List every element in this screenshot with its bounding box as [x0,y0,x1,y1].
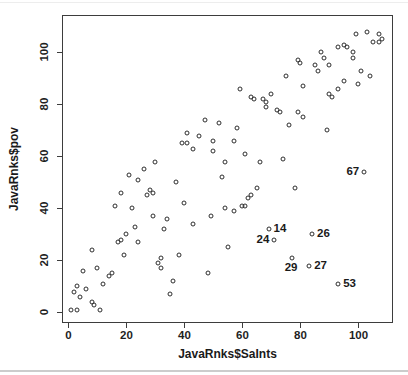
data-point [153,159,158,164]
y-axis-tick [57,312,62,314]
y-axis-tick-label: 80 [38,98,50,111]
point-label: 53 [343,277,356,289]
data-point [141,167,146,172]
data-point [185,141,190,146]
data-point [176,253,181,258]
data-point [98,307,103,312]
data-point [301,115,306,120]
data-point [159,255,164,260]
data-point [223,206,228,211]
data-point [292,185,297,190]
data-point [341,79,346,84]
data-point [237,86,242,91]
data-point [165,216,170,221]
data-point [89,247,94,252]
data-point-labeled [310,232,315,237]
data-point [324,128,329,133]
data-point [223,159,228,164]
data-point [147,188,152,193]
data-point [173,180,178,185]
data-point [341,42,346,47]
y-axis-tick-label: 20 [38,254,50,267]
data-point [208,214,213,219]
data-point [220,175,225,180]
y-axis-tick [57,156,62,158]
data-point [101,281,106,286]
data-point [112,203,117,208]
x-axis-tick-label: 100 [349,329,368,341]
x-axis-tick [126,323,128,328]
x-axis-tick-label: 20 [120,329,133,341]
data-point-labeled [272,237,277,242]
data-point-labeled [307,263,312,268]
x-axis-tick [68,323,70,328]
data-point [72,289,77,294]
data-point [379,37,384,42]
data-point [269,92,274,97]
x-axis-tick-label: 60 [236,329,249,341]
data-point [191,146,196,151]
data-point [312,63,317,68]
data-point [191,221,196,226]
y-axis-tick [57,208,62,210]
data-point [150,214,155,219]
x-axis-tick [358,323,360,328]
data-point [295,58,300,63]
data-point [109,271,114,276]
data-point [318,50,323,55]
data-point [327,92,332,97]
data-point [211,138,216,143]
data-point [133,224,138,229]
data-point [179,141,184,146]
data-point [182,201,187,206]
data-point [136,240,141,245]
y-axis-tick [57,260,62,262]
data-point [156,260,161,265]
data-point [356,81,361,86]
data-point [80,268,85,273]
data-point [170,279,175,284]
data-point [365,29,370,34]
point-label: 27 [314,259,327,271]
data-point [121,253,126,258]
data-point [69,307,74,312]
scan-artifact-top [0,2,408,3]
data-point [202,118,207,123]
data-point [118,237,123,242]
point-label: 14 [274,223,287,235]
data-point [185,131,190,136]
data-point [283,73,288,78]
data-point [127,172,132,177]
data-point [327,63,332,68]
data-point [75,284,80,289]
data-point [95,266,100,271]
x-axis-tick-label: 40 [178,329,191,341]
data-point [263,105,268,110]
point-label: 26 [317,228,330,240]
data-point [336,45,341,50]
x-axis-tick [242,323,244,328]
data-point [89,299,94,304]
point-label: 67 [346,165,359,177]
y-axis-tick [57,52,62,54]
data-point [124,232,129,237]
data-point [225,245,230,250]
x-axis-tick-label: 0 [65,329,71,341]
data-point [159,266,164,271]
data-point [249,94,254,99]
data-point-labeled [266,227,271,232]
y-axis-tick-label: 60 [38,150,50,163]
data-point [275,107,280,112]
data-point [75,307,80,312]
data-point [350,55,355,60]
data-point [257,159,262,164]
x-axis-tick-label: 80 [294,329,307,341]
data-point-labeled [362,169,367,174]
data-point [77,294,82,299]
scan-artifact-bottom [0,370,408,372]
data-point [83,286,88,291]
data-point [376,32,381,37]
y-axis-tick-label: 100 [38,43,50,62]
data-point [243,203,248,208]
data-point [211,149,216,154]
